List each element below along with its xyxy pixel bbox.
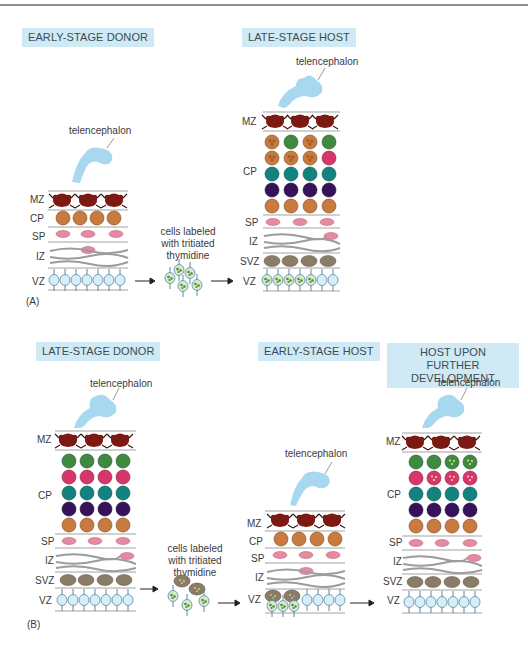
- cortex-transplant-diagram: [0, 0, 528, 645]
- telencephalon-shape: [72, 148, 112, 184]
